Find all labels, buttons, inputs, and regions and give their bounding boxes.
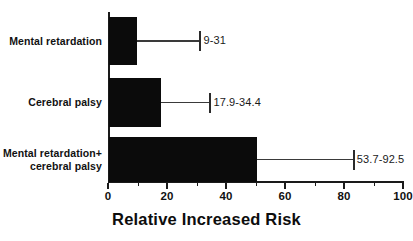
error-bar-cap bbox=[199, 31, 201, 51]
category-label: Mental retardation bbox=[9, 35, 102, 48]
x-tick-label: 40 bbox=[220, 190, 233, 202]
x-tick-label: 20 bbox=[161, 190, 174, 202]
range-label: 9-31 bbox=[203, 34, 225, 46]
x-tick-minor bbox=[374, 183, 375, 186]
error-bar-cap bbox=[353, 150, 355, 170]
error-bar-line bbox=[257, 159, 353, 161]
x-tick-minor bbox=[197, 183, 198, 186]
error-bar-cap bbox=[209, 93, 211, 113]
x-tick-major bbox=[402, 183, 404, 189]
x-tick-major bbox=[107, 183, 109, 189]
bar bbox=[109, 137, 257, 182]
x-tick-label: 100 bbox=[393, 190, 413, 202]
x-tick-label: 0 bbox=[105, 190, 112, 202]
x-tick-minor bbox=[138, 183, 139, 186]
x-tick-minor bbox=[315, 183, 316, 186]
x-tick-major bbox=[284, 183, 286, 189]
chart-figure: 9-3117.9-34.453.7-92.5 Mental retardatio… bbox=[0, 0, 413, 241]
category-label: Cerebral palsy bbox=[28, 96, 102, 109]
x-tick-minor bbox=[256, 183, 257, 186]
x-tick-major bbox=[225, 183, 227, 189]
bar bbox=[109, 17, 137, 65]
range-label: 17.9-34.4 bbox=[213, 96, 260, 108]
x-tick-major bbox=[343, 183, 345, 189]
bar bbox=[109, 78, 161, 127]
category-label: Mental retardation+ cerebral palsy bbox=[3, 147, 102, 173]
range-label: 53.7-92.5 bbox=[357, 153, 404, 165]
error-bar-line bbox=[161, 102, 209, 104]
x-axis-title: Relative Increased Risk bbox=[0, 210, 413, 229]
x-tick-major bbox=[166, 183, 168, 189]
error-bar-line bbox=[137, 40, 200, 42]
x-tick-label: 80 bbox=[338, 190, 351, 202]
x-tick-label: 60 bbox=[279, 190, 292, 202]
